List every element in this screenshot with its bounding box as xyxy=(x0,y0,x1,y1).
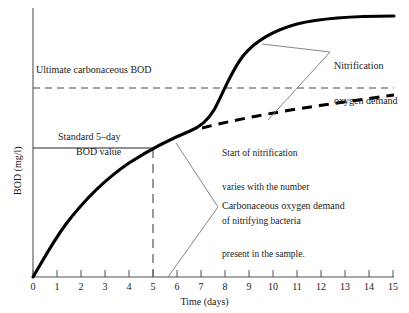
annotation-nitrification-oxygen-demand: Nitrification oxygen demand xyxy=(334,36,398,130)
annotation-start-line4: present in the sample. xyxy=(222,249,309,260)
x-tick-label-3: 3 xyxy=(95,281,115,292)
annotation-standard-5day: Standard 5–day xyxy=(58,131,121,143)
x-tick-label-2: 2 xyxy=(71,281,91,292)
x-tick-label-1: 1 xyxy=(47,281,67,292)
annotation-nitrification-line1: Nitrification xyxy=(334,60,398,72)
y-axis-title: BOD (mg/l) xyxy=(12,146,23,195)
annotation-nitrification-line2: oxygen demand xyxy=(334,95,398,107)
x-tick-label-6: 6 xyxy=(167,281,187,292)
x-tick-label-13: 13 xyxy=(335,281,355,292)
x-tick-label-14: 14 xyxy=(359,281,379,292)
x-tick-label-0: 0 xyxy=(23,281,43,292)
x-tick-label-12: 12 xyxy=(311,281,331,292)
x-tick-label-5: 5 xyxy=(143,281,163,292)
chart-figure: BOD (mg/l) Time (days) 0 1 2 3 4 5 6 7 8… xyxy=(0,0,409,313)
annotation-start-line2: varies with the number xyxy=(222,182,309,193)
annotation-ultimate-carbonaceous-bod: Ultimate carbonaceous BOD xyxy=(36,64,152,76)
annotation-start-line3: of nitrifying bacteria xyxy=(222,216,309,227)
x-tick-label-15: 15 xyxy=(383,281,403,292)
x-tick-label-4: 4 xyxy=(119,281,139,292)
x-tick-label-7: 7 xyxy=(191,281,211,292)
annotation-bod-value: BOD value xyxy=(76,146,121,158)
carbonaceous-leader-line xyxy=(168,143,218,277)
nitrification-leader-line xyxy=(262,44,330,120)
x-axis-title: Time (days) xyxy=(0,296,409,307)
annotation-start-line1: Start of nitrification xyxy=(222,148,309,159)
annotation-carbonaceous-oxygen-demand: Carbonaceous oxygen demand xyxy=(222,200,345,212)
x-axis-ticks xyxy=(33,270,393,277)
